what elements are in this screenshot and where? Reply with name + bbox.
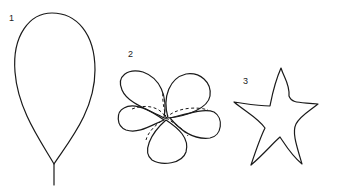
figure-2-flower: 2	[118, 49, 220, 163]
hidden-edge-5	[166, 118, 188, 136]
figure-1-teardrop: 1	[9, 13, 95, 185]
figure-3-label: 3	[243, 76, 248, 86]
petal-bottom	[148, 120, 187, 163]
petal-right	[170, 111, 220, 139]
petal-top-right	[166, 74, 210, 118]
petal-left	[118, 106, 164, 131]
diagram-canvas: 1 2 3	[0, 0, 346, 188]
teardrop-outline	[15, 13, 95, 164]
figure-3-star: 3	[234, 68, 318, 165]
figure-2-label: 2	[128, 49, 133, 59]
petal-top-left	[120, 71, 165, 118]
hidden-edge-4	[146, 118, 166, 140]
figure-1-label: 1	[9, 13, 14, 23]
